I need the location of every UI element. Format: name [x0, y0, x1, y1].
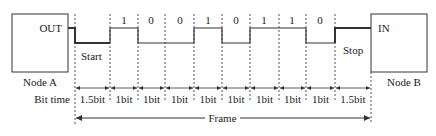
bit-time-value: 1.5bit: [80, 93, 105, 105]
node-b-name: Node B: [387, 76, 421, 88]
stop-label: Stop: [343, 44, 364, 56]
bit-time-value: 1bit: [115, 93, 132, 105]
serial-frame-diagram: OUT Node A IN Node B 1 0 0 1 0 1 1 0: [0, 0, 436, 136]
bit-value: 1: [289, 14, 295, 26]
bit-time-value: 1.5bit: [340, 93, 365, 105]
bit-time-value: 1bit: [256, 93, 273, 105]
bit-value: 1: [121, 14, 127, 26]
bit-time-value: 1bit: [284, 93, 301, 105]
bit-value: 0: [177, 14, 183, 26]
bit-time-value: 1bit: [199, 93, 216, 105]
bit-time-label: Bit time: [34, 93, 70, 105]
bit-time-value: 1bit: [171, 93, 188, 105]
bit-time-values: 1.5bit 1bit 1bit 1bit 1bit 1bit 1bit 1bi…: [80, 93, 366, 105]
node-b: IN Node B: [371, 14, 427, 88]
bit-value: 0: [317, 14, 323, 26]
bit-boundaries: [75, 14, 371, 124]
bit-time-value: 1bit: [143, 93, 160, 105]
node-a: OUT Node A: [12, 14, 68, 88]
bit-value: 1: [205, 14, 211, 26]
start-label: Start: [81, 50, 102, 62]
bit-value: 0: [233, 14, 239, 26]
bit-value: 0: [148, 14, 154, 26]
node-a-out-label: OUT: [39, 22, 62, 34]
node-b-in-label: IN: [378, 22, 390, 34]
bit-time-value: 1bit: [312, 93, 329, 105]
bit-time-value: 1bit: [227, 93, 244, 105]
signal-waveform: [68, 28, 371, 43]
frame-label: Frame: [208, 112, 236, 124]
bit-value: 1: [261, 14, 267, 26]
node-a-name: Node A: [23, 76, 57, 88]
